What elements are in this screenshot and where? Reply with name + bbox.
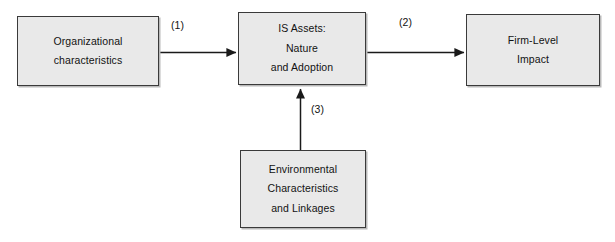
node-label-line: Organizational [53, 32, 122, 51]
edge-label-1: (1) [171, 19, 184, 31]
node-organizational-characteristics[interactable]: Organizational characteristics [17, 16, 159, 86]
node-label-line: Nature [286, 39, 318, 58]
node-is-assets[interactable]: IS Assets: Nature and Adoption [238, 12, 366, 85]
node-environmental-characteristics[interactable]: Environmental Characteristics and Linkag… [240, 150, 366, 228]
edge-label-2: (2) [399, 16, 412, 28]
node-label-line: Firm-Level [508, 31, 559, 50]
edge-label-3: (3) [311, 103, 324, 115]
node-label-line: Characteristics [268, 179, 339, 198]
node-label-line: and Linkages [271, 199, 335, 218]
node-label-line: Environmental [269, 160, 337, 179]
node-label-line: characteristics [54, 51, 123, 70]
diagram-canvas: Organizational characteristics IS Assets… [0, 0, 615, 242]
node-firm-level-impact[interactable]: Firm-Level Impact [466, 14, 600, 86]
node-label-line: Impact [517, 50, 549, 69]
node-label-line: and Adoption [271, 58, 334, 77]
node-label-line: IS Assets: [278, 19, 326, 38]
